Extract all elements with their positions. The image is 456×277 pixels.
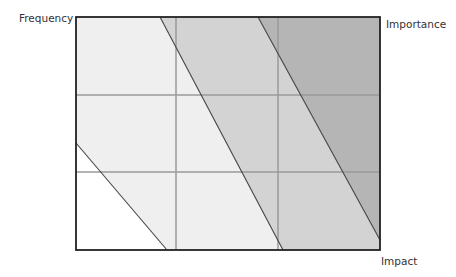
importance-matrix — [0, 0, 456, 277]
